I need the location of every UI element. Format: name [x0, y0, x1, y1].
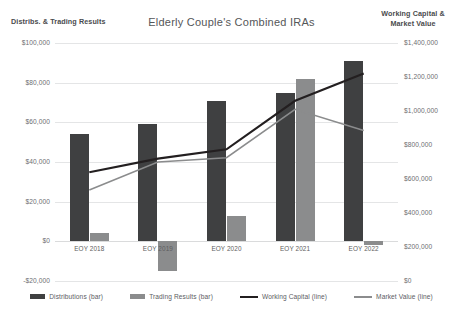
legend-item[interactable]: Market Value (line)	[354, 293, 433, 300]
right-axis-tick-label: $0	[404, 277, 412, 284]
legend-swatch-distributions-icon	[30, 294, 45, 299]
legend-label: Distributions (bar)	[49, 293, 103, 300]
category-label: EOY 2022	[334, 245, 394, 252]
left-axis-tick-label: $20,000	[25, 198, 50, 205]
right-axis-tick-label: $1,400,000	[404, 39, 438, 46]
legend-label: Working Capital (line)	[262, 293, 327, 300]
left-axis-tick-label: -$20,000	[23, 277, 50, 284]
legend-label: Trading Results (bar)	[149, 293, 213, 300]
legend-swatch-trading-results-icon	[130, 294, 145, 299]
left-axis-tick-label: $40,000	[25, 158, 50, 165]
left-axis-tick-label: $80,000	[25, 79, 50, 86]
chart-title: Elderly Couple's Combined IRAs	[0, 16, 463, 28]
left-axis-tick-label: $0	[42, 237, 50, 244]
right-axis-tick-label: $800,000	[404, 141, 432, 148]
plot-area: $100,000$80,000$60,000$40,000$20,000$0-$…	[55, 43, 398, 281]
right-axis-tick-label: $600,000	[404, 175, 432, 182]
category-label: EOY 2019	[128, 245, 188, 252]
right-axis-tick-label: $1,200,000	[404, 73, 438, 80]
legend-item[interactable]: Distributions (bar)	[30, 293, 103, 300]
chart-container: Distribs. & Trading Results Working Capi…	[0, 0, 463, 319]
right-axis-tick-label: $400,000	[404, 209, 432, 216]
legend-swatch-market-value-icon	[354, 296, 372, 298]
chart-legend: Distributions (bar)Trading Results (bar)…	[0, 293, 463, 300]
left-axis-tick-label: $60,000	[25, 118, 50, 125]
right-axis-tick-label: $1,000,000	[404, 107, 438, 114]
gridline	[55, 281, 398, 282]
legend-item[interactable]: Working Capital (line)	[240, 293, 327, 300]
legend-swatch-working-capital-icon	[240, 296, 258, 298]
left-axis-tick-label: $100,000	[22, 39, 50, 46]
legend-item[interactable]: Trading Results (bar)	[130, 293, 213, 300]
right-axis-tick-label: $200,000	[404, 243, 432, 250]
category-label: EOY 2020	[197, 245, 257, 252]
category-label: EOY 2018	[59, 245, 119, 252]
category-label: EOY 2021	[265, 245, 325, 252]
legend-label: Market Value (line)	[376, 293, 433, 300]
